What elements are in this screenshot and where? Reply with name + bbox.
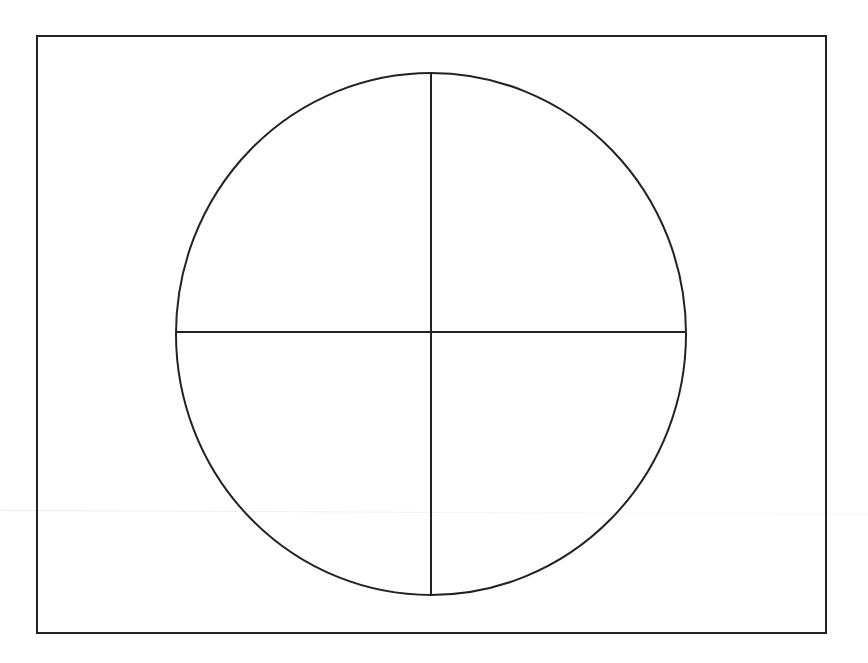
diagram-canvas (0, 0, 868, 663)
